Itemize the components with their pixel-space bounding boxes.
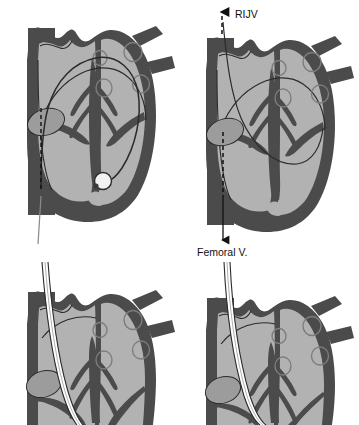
- figure-root: RIJV Femoral V.: [0, 0, 359, 425]
- femoral-label: Femoral V.: [197, 246, 247, 258]
- panel-sheath-advance-a: [0, 262, 180, 425]
- panel-sheath-advance-b: [179, 262, 359, 425]
- vessel-stub-upper-right: [311, 296, 342, 316]
- balloon-tip-marker: [93, 183, 98, 188]
- rijv-label: RIJV: [235, 8, 258, 20]
- vessel-stub-lower-right: [147, 56, 175, 74]
- panel-venous-access-routes: RIJV Femoral V.: [179, 0, 359, 260]
- vessel-stub-upper-right: [132, 290, 163, 310]
- vessel-stub-lower-right: [147, 320, 175, 338]
- panel-balloon-tip-catheter: [0, 0, 180, 250]
- vessel-stub-lower-right: [326, 326, 354, 344]
- vessel-stub-lower-right: [326, 66, 354, 84]
